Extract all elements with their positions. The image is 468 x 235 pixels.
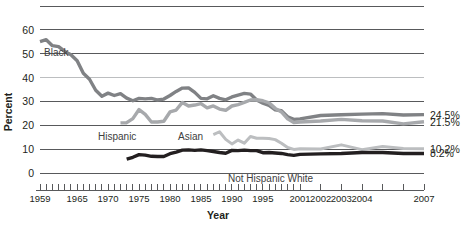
end-label-not-hispanic-white: 8.2% bbox=[430, 147, 454, 159]
annotation-hispanic: Hispanic bbox=[98, 131, 136, 142]
series-line-not-hispanic-white bbox=[127, 150, 424, 159]
x-axis-ticks bbox=[36, 184, 424, 190]
series-line-asian bbox=[213, 132, 424, 150]
poverty-rate-line-chart: 0102030405060 19591965197019751980198519… bbox=[0, 0, 468, 235]
annotation-asian: Asian bbox=[178, 131, 203, 142]
x-tick-label-1959: 1959 bbox=[29, 193, 50, 204]
x-tick-label-2007: 2007 bbox=[413, 193, 434, 204]
x-tick-label-1990: 1990 bbox=[221, 193, 242, 204]
y-tick-50: 50 bbox=[22, 48, 34, 60]
series-end-value-labels: 24.5%21.5%10.2%8.2% bbox=[430, 109, 460, 160]
x-tick-label-2002: 2002 bbox=[310, 193, 331, 204]
series-line-hispanic bbox=[120, 100, 424, 124]
y-tick-30: 30 bbox=[22, 95, 34, 107]
chart-container: 0102030405060 19591965197019751980198519… bbox=[0, 0, 468, 235]
y-axis-title: Percent bbox=[2, 92, 14, 131]
x-tick-label-1970: 1970 bbox=[98, 193, 119, 204]
x-tick-label-1995: 1995 bbox=[252, 193, 273, 204]
x-axis-tick-labels: 1959196519701975198019851990199520012002… bbox=[29, 193, 434, 204]
x-tick-label-1985: 1985 bbox=[190, 193, 211, 204]
x-tick-label-1975: 1975 bbox=[128, 193, 149, 204]
y-tick-10: 10 bbox=[22, 143, 34, 155]
x-axis-title: Year bbox=[207, 209, 229, 221]
x-tick-label-2001: 2001 bbox=[289, 193, 310, 204]
x-tick-label-2004: 2004 bbox=[351, 193, 372, 204]
y-tick-20: 20 bbox=[22, 119, 34, 131]
x-tick-label-2003: 2003 bbox=[331, 193, 352, 204]
x-tick-label-1980: 1980 bbox=[159, 193, 180, 204]
y-axis-tick-labels: 0102030405060 bbox=[22, 24, 34, 179]
x-tick-label-1965: 1965 bbox=[67, 193, 88, 204]
y-tick-40: 40 bbox=[22, 72, 34, 84]
annotation-not-hispanic-white: Not Hispanic White bbox=[228, 173, 313, 184]
y-tick-60: 60 bbox=[22, 24, 34, 36]
y-tick-0: 0 bbox=[28, 167, 34, 179]
annotation-black: Black bbox=[44, 47, 69, 58]
series-annotations: BlackHispanicAsianNot Hispanic White bbox=[44, 47, 313, 184]
end-label-hispanic: 21.5% bbox=[430, 116, 460, 128]
